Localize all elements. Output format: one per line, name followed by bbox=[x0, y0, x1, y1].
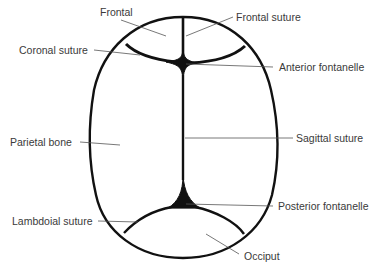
label-frontal-suture: Frontal suture bbox=[236, 11, 301, 23]
leader-lambdoial-suture bbox=[98, 221, 138, 222]
leader-posterior-fontanelle bbox=[186, 204, 273, 206]
label-occiput: Occiput bbox=[244, 250, 280, 262]
anterior-fontanelle-shape bbox=[166, 50, 196, 80]
label-posterior-fontanelle: Posterior fontanelle bbox=[278, 200, 368, 212]
leader-parietal-bone bbox=[80, 142, 120, 145]
lambdoid-suture-line bbox=[124, 207, 244, 234]
coronal-suture-left bbox=[126, 44, 176, 62]
label-anterior-fontanelle: Anterior fontanelle bbox=[279, 61, 364, 73]
label-sagittal-suture: Sagittal suture bbox=[296, 132, 363, 144]
label-parietal-bone: Parietal bone bbox=[10, 136, 72, 148]
leader-anterior-fontanelle bbox=[186, 64, 273, 67]
label-lambdoial-suture: Lambdoial suture bbox=[12, 215, 93, 227]
coronal-suture-right bbox=[190, 46, 245, 63]
label-coronal-suture: Coronal suture bbox=[19, 44, 88, 56]
label-frontal: Frontal bbox=[100, 6, 133, 18]
skull-diagram: Frontal Frontal suture Coronal suture An… bbox=[0, 0, 377, 274]
